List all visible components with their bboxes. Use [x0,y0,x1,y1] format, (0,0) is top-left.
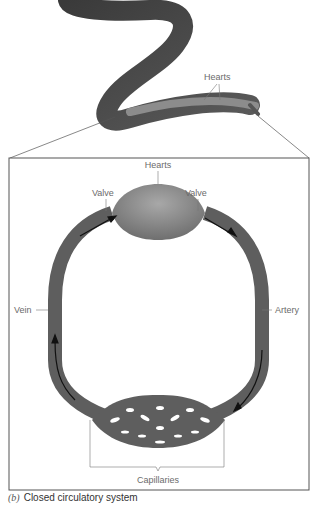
vein-label: Vein [14,305,32,315]
hearts-label: Hearts [145,160,172,170]
caption-text: Closed circulatory system [24,492,138,503]
figure-caption: (b)Closed circulatory system [8,492,138,503]
closed-circulatory-diagram: Hearts Hearts Valve Valve Vein [0,0,317,513]
valve-left-label: Valve [92,188,114,198]
worm-hearts-label: Hearts [204,72,231,82]
zoom-line-right [258,116,309,158]
valve-right-label: Valve [185,188,207,198]
earthworm-illustration [68,0,258,121]
caption-letter: (b) [8,492,20,503]
artery-label: Artery [275,305,300,315]
zoom-line-left [10,117,115,158]
capillaries-label: Capillaries [137,475,180,485]
